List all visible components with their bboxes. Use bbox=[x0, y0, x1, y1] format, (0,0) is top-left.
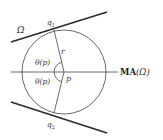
medial-axis-diagram: Ω q1 r θ(p) θ(p) p q2 MA(Ω) bbox=[0, 0, 163, 140]
omega-label: Ω bbox=[16, 25, 25, 35]
upper-boundary-line bbox=[11, 12, 107, 42]
lower-boundary-line bbox=[11, 102, 107, 133]
radius-to-q2 bbox=[54, 72, 64, 113]
r-label: r bbox=[61, 47, 66, 56]
medial-axis-label: MA(Ω) bbox=[120, 67, 150, 77]
theta-upper-label: θ(p) bbox=[35, 58, 50, 67]
p-label: p bbox=[66, 74, 71, 83]
theta-lower-label: θ(p) bbox=[35, 77, 50, 86]
q1-label: q1 bbox=[47, 18, 55, 28]
q2-label: q2 bbox=[47, 120, 55, 130]
